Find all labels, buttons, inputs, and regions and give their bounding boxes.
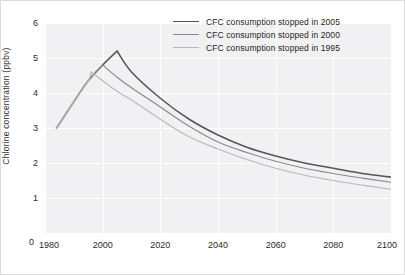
series-line [57, 51, 118, 128]
y-axis-tick-label: 6 [33, 18, 38, 28]
x-axis-tick-label: 2080 [323, 240, 343, 250]
series-line [103, 65, 391, 182]
legend-label: CFC consumption stopped in 1995 [206, 43, 340, 53]
legend-item[interactable]: CFC consumption stopped in 1995 [173, 41, 340, 54]
y-axis-tick-label: 1 [33, 193, 38, 203]
x-axis-tick-label: 2000 [93, 240, 113, 250]
plot-area: 123456 1980200020202040206020802100 [45, 23, 391, 233]
y-axis-title-text: Chlorine concentration (ppbv) [1, 47, 11, 164]
gridline-horizontal [45, 233, 391, 234]
y-axis-zero-label: 0 [29, 237, 34, 247]
series-line [57, 72, 92, 128]
series-line [91, 72, 391, 189]
series-lines [45, 23, 391, 233]
legend-item[interactable]: CFC consumption stopped in 2005 [173, 15, 340, 28]
legend-label: CFC consumption stopped in 2005 [206, 17, 340, 27]
chart-figure: Chlorine concentration (ppbv) 0 123456 1… [0, 0, 405, 275]
y-axis-tick-label: 2 [33, 158, 38, 168]
y-axis-tick-label: 4 [33, 88, 38, 98]
legend-label: CFC consumption stopped in 2000 [206, 30, 340, 40]
gridline-vertical [391, 23, 392, 233]
x-axis-tick-label: 2020 [150, 240, 170, 250]
legend-line-swatch [173, 47, 199, 48]
x-axis-tick-label: 2060 [266, 240, 286, 250]
y-axis-tick-label: 5 [33, 53, 38, 63]
x-axis-tick-label: 2100 [377, 240, 397, 250]
series-line [117, 51, 391, 177]
x-axis-tick-label: 2040 [208, 240, 228, 250]
y-axis-title: Chlorine concentration (ppbv) [0, 1, 13, 211]
x-axis-tick-label: 1980 [39, 240, 59, 250]
legend-item[interactable]: CFC consumption stopped in 2000 [173, 28, 340, 41]
legend-line-swatch [173, 21, 199, 22]
legend: CFC consumption stopped in 2005CFC consu… [173, 15, 340, 54]
y-axis-tick-label: 3 [33, 123, 38, 133]
legend-line-swatch [173, 34, 199, 35]
